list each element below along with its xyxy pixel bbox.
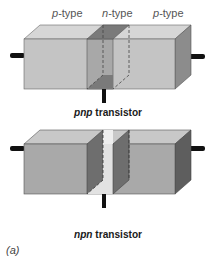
- npn-transistor-block: [0, 123, 212, 243]
- pnp-transistor-block: [0, 0, 212, 120]
- transistor-figure: p-type n-type p-type pnp transistor n-ty…: [0, 0, 212, 258]
- emitter-lead: [10, 53, 25, 58]
- pnp-caption: pnp transistor: [74, 106, 142, 118]
- npn-caption: npn transistor: [74, 228, 142, 240]
- base-lead: [102, 89, 106, 103]
- middle-region-front: [103, 144, 113, 194]
- middle-region-top: [103, 130, 113, 144]
- emitter-lead: [10, 146, 25, 151]
- base-lead: [102, 194, 106, 208]
- panel-label: (a): [6, 244, 19, 256]
